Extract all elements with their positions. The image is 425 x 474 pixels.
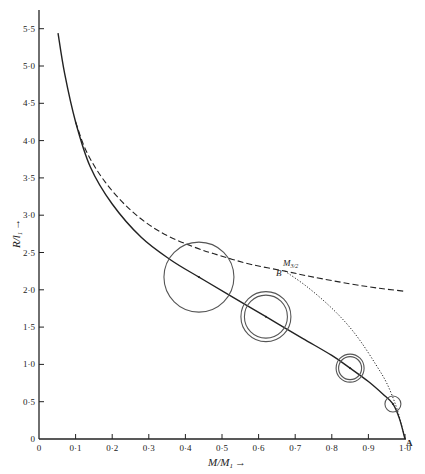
circle-center-dot bbox=[349, 367, 351, 369]
y-tick-label: 0 bbox=[31, 434, 36, 444]
y-axis-title: R/l1→ bbox=[10, 219, 24, 249]
x-ticks: 00·10·20·30·40·50·60·70·80·91·0 bbox=[37, 434, 412, 453]
solid-curve bbox=[58, 33, 405, 439]
x-tick-label: 0·6 bbox=[253, 443, 265, 453]
x-tick-label: 0·8 bbox=[326, 443, 338, 453]
x-tick-label: 0·9 bbox=[362, 443, 374, 453]
y-tick-label: 0·5 bbox=[23, 397, 35, 407]
x-tick-label: 0·4 bbox=[179, 443, 191, 453]
y-tick-label: 2·0 bbox=[23, 285, 35, 295]
chart: 00·51·01·52·02·53·03·54·04·55·05·5 00·10… bbox=[0, 0, 425, 474]
y-tick-label: 1·0 bbox=[23, 359, 35, 369]
x-tick-label: 0·1 bbox=[70, 443, 82, 453]
x-tick-label: 0 bbox=[37, 443, 42, 453]
circle-center-dot bbox=[198, 276, 200, 278]
y-tick-label: 5·5 bbox=[23, 24, 35, 34]
x-tick-label: 0·2 bbox=[106, 443, 118, 453]
x-tick-label: 0·7 bbox=[289, 443, 301, 453]
point-a-label: A bbox=[406, 438, 413, 448]
dashed-curve bbox=[76, 122, 405, 291]
point-m-label: M3/2 bbox=[282, 258, 298, 269]
y-tick-label: 3·5 bbox=[23, 173, 35, 183]
circle-center-dot bbox=[265, 316, 267, 318]
y-tick-label: 4·5 bbox=[23, 98, 35, 108]
point-b-label: B bbox=[276, 268, 282, 278]
curves bbox=[58, 33, 405, 439]
x-tick-label: 0·3 bbox=[143, 443, 155, 453]
y-tick-label: 1·5 bbox=[23, 322, 35, 332]
x-axis-title: M/M1→ bbox=[207, 456, 246, 470]
y-tick-label: 3·0 bbox=[23, 210, 35, 220]
y-tick-label: 4·0 bbox=[23, 136, 35, 146]
x-tick-label: 0·5 bbox=[216, 443, 228, 453]
axes bbox=[39, 10, 406, 439]
y-tick-label: 5·0 bbox=[23, 61, 35, 71]
y-ticks: 00·51·01·52·02·53·03·54·04·55·05·5 bbox=[23, 24, 44, 444]
circle-center-dot bbox=[392, 403, 394, 405]
y-tick-label: 2·5 bbox=[23, 248, 35, 258]
